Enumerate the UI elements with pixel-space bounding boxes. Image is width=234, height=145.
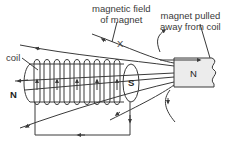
label-coil: coil xyxy=(6,52,20,63)
label-field-line2: of magnet xyxy=(92,14,151,25)
coil-north-pole: N xyxy=(10,89,17,100)
label-pulled-line1: magnet pulled xyxy=(160,10,221,21)
coil-south-pole: S xyxy=(128,77,134,88)
label-x-marker: X xyxy=(117,38,123,49)
magnet-north-pole: N xyxy=(190,68,197,79)
label-magnetic-field: magnetic field of magnet xyxy=(92,3,151,25)
label-pulled-line2: away from coil xyxy=(160,21,221,32)
label-magnet-pulled: magnet pulled away from coil xyxy=(160,10,221,32)
label-field-line1: magnetic field xyxy=(92,3,151,14)
